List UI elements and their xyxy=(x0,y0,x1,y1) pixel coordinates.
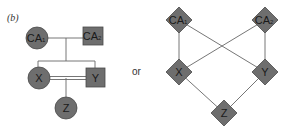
svg-text:Z: Z xyxy=(221,107,228,119)
svg-text:Y: Y xyxy=(92,72,100,84)
node-z: Z xyxy=(55,97,77,119)
node-x: X xyxy=(28,67,50,89)
node-ca1: CA1 xyxy=(26,27,48,49)
node-ca2: CA2 xyxy=(83,27,103,45)
svg-text:X: X xyxy=(35,72,43,84)
pedigree-figure: (b) CA1 CA2 X Y Z or xyxy=(0,0,290,136)
left-pedigree: CA1 CA2 X Y Z xyxy=(26,27,105,119)
right-dag: CA1 CA2 X Y Z xyxy=(166,7,278,126)
diamond-ca1: CA1 xyxy=(166,7,192,33)
svg-text:Z: Z xyxy=(63,102,70,114)
svg-text:X: X xyxy=(175,66,183,78)
node-y: Y xyxy=(86,68,105,87)
diamond-ca2: CA2 xyxy=(252,7,278,33)
or-separator: or xyxy=(132,66,142,77)
svg-text:Y: Y xyxy=(261,66,269,78)
panel-label: (b) xyxy=(7,12,19,24)
diamond-x: X xyxy=(166,59,192,85)
